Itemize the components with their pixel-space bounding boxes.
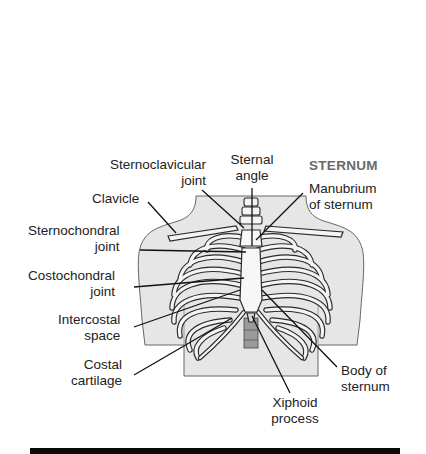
label-line: Xiphoid xyxy=(265,395,325,411)
label-clavicle: Clavicle xyxy=(92,191,139,207)
label-xiphoid-process: Xiphoid process xyxy=(265,395,325,427)
sternum-body xyxy=(240,248,262,312)
label-line: sternum xyxy=(341,379,390,395)
label-sternoclavicular-joint: Sternoclavicular joint xyxy=(110,157,206,189)
label-costal-cartilage: Costal cartilage xyxy=(71,357,122,389)
label-manubrium: Manubrium of sternum xyxy=(309,181,377,213)
label-line: Costochondral xyxy=(28,268,115,284)
label-line: joint xyxy=(110,173,206,189)
sternum xyxy=(240,230,262,322)
label-line: process xyxy=(265,411,325,427)
label-line: Costal xyxy=(71,357,122,373)
label-line: Sternal xyxy=(226,152,278,168)
label-sternochondral-joint: Sternochondral joint xyxy=(28,223,120,255)
label-line: of sternum xyxy=(309,197,377,213)
label-line: Intercostal xyxy=(58,312,120,328)
diagram-title: STERNUM xyxy=(309,158,378,174)
label-costochondral-joint: Costochondral joint xyxy=(28,268,115,300)
bottom-rule xyxy=(30,448,400,454)
label-line: Body of xyxy=(341,363,390,379)
label-body-of-sternum: Body of sternum xyxy=(341,363,390,395)
label-line: cartilage xyxy=(71,373,122,389)
label-line: space xyxy=(58,328,120,344)
label-line: Clavicle xyxy=(92,191,139,207)
label-line: angle xyxy=(226,168,278,184)
label-intercostal-space: Intercostal space xyxy=(58,312,120,344)
label-sternal-angle: Sternal angle xyxy=(226,152,278,184)
label-line: joint xyxy=(28,239,120,255)
label-line: Sternoclavicular xyxy=(110,157,206,173)
label-line: Sternochondral xyxy=(28,223,120,239)
label-line: Manubrium xyxy=(309,181,377,197)
label-line: joint xyxy=(28,284,115,300)
